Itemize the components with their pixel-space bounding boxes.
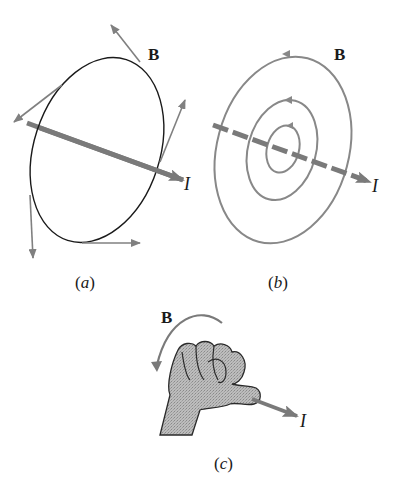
panel-a: B I (a): [8, 25, 191, 292]
field-label-a: B: [148, 45, 159, 64]
caption-c: (c): [214, 454, 233, 473]
field-direction-inner: [286, 122, 293, 129]
field-label-c: B: [161, 308, 172, 327]
panel-c: B I (c): [151, 308, 307, 473]
current-label-c: I: [299, 411, 307, 431]
tangent-vector-top: [111, 25, 140, 62]
curl-arrowhead: [151, 361, 162, 372]
field-label-b: B: [334, 45, 345, 64]
field-direction-middle: [284, 96, 292, 104]
current-label-b: I: [371, 176, 379, 196]
current-arrow-c: [252, 399, 297, 416]
magnetic-field-diagram: B I (a) B I (b) B I (c): [0, 0, 397, 497]
panel-b: B I (b): [195, 41, 379, 292]
tangent-vector-left: [14, 85, 62, 122]
caption-a: (a): [75, 273, 95, 292]
tangent-vector-lower-left: [30, 195, 33, 258]
caption-b: (b): [268, 273, 288, 292]
right-hand-icon: [160, 342, 260, 436]
current-wire-b: [213, 125, 370, 182]
current-label-a: I: [183, 174, 191, 194]
